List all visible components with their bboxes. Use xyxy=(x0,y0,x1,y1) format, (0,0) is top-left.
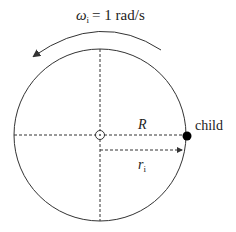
angular-velocity-label: ωi= 1 rad/s xyxy=(76,7,145,25)
radius-label: R xyxy=(137,117,147,132)
ri-label: ri xyxy=(138,157,146,174)
merry-go-round-diagram: ωi= 1 rad/s R ri child xyxy=(0,0,236,232)
child-label: child xyxy=(195,118,223,133)
rotation-arrow-icon xyxy=(34,31,161,56)
omega-subscript: i xyxy=(87,15,90,25)
omega-symbol: ω xyxy=(76,7,87,23)
pivot-center-dot xyxy=(99,134,101,136)
omega-value: = 1 rad/s xyxy=(92,7,145,23)
child-dot xyxy=(183,132,192,141)
r-subscript: i xyxy=(143,164,146,174)
